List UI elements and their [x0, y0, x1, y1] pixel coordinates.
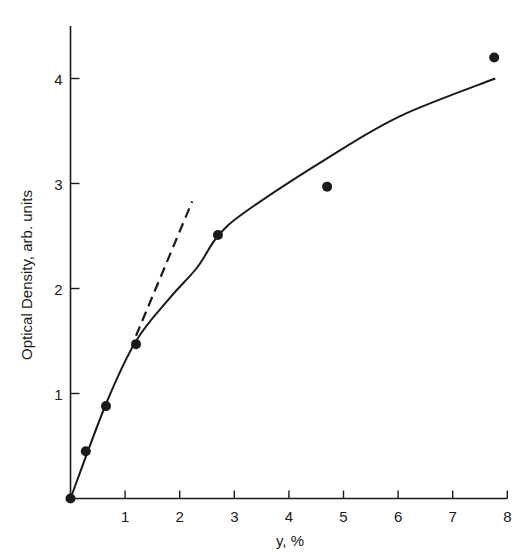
x-tick-label: 4	[285, 508, 293, 525]
y-axis-ticks: 1234	[54, 71, 79, 403]
y-tick-label: 4	[54, 71, 62, 88]
x-tick-label: 7	[449, 508, 457, 525]
x-tick-label: 3	[230, 508, 238, 525]
chart: 12345678 1234 y, % Optical Density, arb.…	[0, 0, 530, 558]
x-tick-label: 8	[503, 508, 511, 525]
tangent-dashed-line	[136, 201, 192, 335]
y-tick-label: 3	[54, 176, 62, 193]
x-tick-label: 1	[121, 508, 129, 525]
axes	[71, 26, 508, 499]
x-tick-label: 6	[394, 508, 402, 525]
y-axis-title: Optical Density, arb. units	[18, 190, 35, 360]
x-tick-label: 2	[176, 508, 184, 525]
x-axis-ticks: 12345678	[121, 491, 512, 525]
data-point	[322, 182, 332, 192]
x-tick-label: 5	[339, 508, 347, 525]
fit-curve	[71, 79, 496, 499]
y-tick-label: 1	[54, 386, 62, 403]
data-point	[489, 53, 499, 63]
x-axis-title: y, %	[276, 532, 304, 549]
plot-series	[66, 53, 500, 504]
y-tick-label: 2	[54, 281, 62, 298]
